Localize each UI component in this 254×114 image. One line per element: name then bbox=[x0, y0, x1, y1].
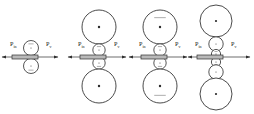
center-dot bbox=[216, 62, 217, 63]
center-dot bbox=[30, 47, 31, 48]
loaded-rod bbox=[197, 55, 223, 59]
force-label-out: Pv bbox=[175, 40, 181, 49]
center-dot bbox=[99, 63, 100, 64]
force-subscript: v bbox=[49, 44, 52, 49]
center-dot bbox=[98, 26, 100, 28]
mechanical-schematic: PinPvPinPvPinPvPinPv bbox=[0, 0, 254, 114]
stage-groups bbox=[2, 5, 250, 110]
force-subscript: in bbox=[13, 44, 16, 49]
loaded-rod bbox=[141, 55, 167, 59]
force-subscript: v bbox=[117, 44, 120, 49]
center-dot bbox=[215, 93, 217, 95]
center-dot bbox=[215, 43, 216, 44]
force-subscript: in bbox=[142, 44, 145, 49]
loaded-rod bbox=[12, 55, 38, 59]
diagram-canvas: PinPvPinPvPinPvPinPv bbox=[0, 0, 254, 114]
center-dot bbox=[215, 71, 216, 72]
center-dot bbox=[160, 50, 161, 51]
force-label-out: Pv bbox=[231, 40, 237, 49]
center-dot bbox=[99, 50, 100, 51]
force-label-in: Pin bbox=[10, 40, 17, 49]
stage-group-4 bbox=[188, 5, 250, 110]
force-label-in: Pin bbox=[195, 40, 202, 49]
center-dot bbox=[159, 26, 161, 28]
force-subscript: in bbox=[81, 44, 84, 49]
center-dot bbox=[215, 20, 217, 22]
force-subscript: v bbox=[234, 44, 237, 49]
force-label-out: Pv bbox=[46, 40, 52, 49]
center-dot bbox=[216, 54, 217, 55]
stage-group-2 bbox=[68, 10, 126, 103]
center-dot bbox=[98, 85, 100, 87]
center-dot bbox=[30, 65, 31, 66]
stage-group-3 bbox=[129, 10, 187, 103]
force-label-in: Pin bbox=[78, 40, 85, 49]
force-label-out: Pv bbox=[114, 40, 120, 49]
force-subscript: in bbox=[198, 44, 201, 49]
center-dot bbox=[159, 85, 161, 87]
center-dot bbox=[160, 63, 161, 64]
force-label-in: Pin bbox=[139, 40, 146, 49]
loaded-rod bbox=[80, 55, 106, 59]
force-labels: PinPvPinPvPinPvPinPv bbox=[10, 40, 237, 49]
force-subscript: v bbox=[178, 44, 181, 49]
